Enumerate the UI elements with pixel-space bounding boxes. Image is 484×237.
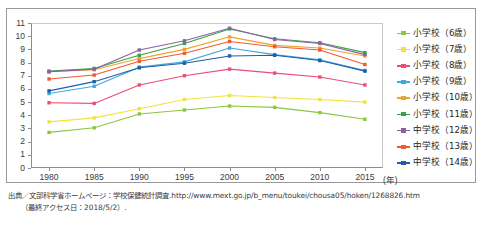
y-axis-tick [28,155,31,156]
data-point-marker [273,96,276,99]
data-point-marker [138,107,141,110]
data-point-marker [318,42,321,45]
data-point-marker [47,120,50,123]
plot-area: 01234567891011 1980198519901995200020052… [31,23,383,168]
legend-item-label: 小学校（11歳） [413,110,478,119]
y-axis-tick [28,115,31,116]
data-point-marker [228,104,231,107]
data-point-marker [183,74,186,77]
legend-item: 中学校（14歳） [397,155,483,171]
source-note: 出典／文部科学省ホームページ：学校保健統計調査.http://www.mext.… [8,190,480,213]
data-point-marker [92,67,95,70]
y-axis-tick [28,168,31,169]
y-axis-tick [28,76,31,77]
data-point-marker [138,54,141,57]
y-axis-tick-label: 9 [3,45,25,54]
y-axis-tick-label: 0 [3,164,25,173]
series-小学校（7歳） [47,94,366,124]
data-point-marker [47,89,50,92]
legend-item: 小学校（8歳） [397,57,483,73]
data-point-marker [92,85,95,88]
y-axis-tick [28,49,31,50]
data-point-marker [273,71,276,74]
data-point-marker [92,126,95,129]
data-point-marker [363,69,366,72]
source-line1-prefix: 出典／文部科学省ホームページ：学校保健統計調査. [8,191,171,200]
y-axis-tick [28,89,31,90]
chart-frame: 01234567891011 1980198519901995200020052… [6,8,476,183]
data-point-marker [318,111,321,114]
data-point-marker [318,98,321,101]
line-chart-svg [31,23,383,168]
legend-item-label: 中学校（14歳） [413,158,478,167]
legend-item-label: 小学校（9歳） [413,77,472,86]
x-axis-tick-label: 2015 [345,173,385,182]
data-point-marker [363,100,366,103]
data-point-marker [138,48,141,51]
legend-marker-icon [397,126,410,135]
data-point-marker [183,62,186,65]
x-axis-tick [365,168,366,171]
data-point-marker [228,35,231,38]
y-axis-tick [28,102,31,103]
legend-marker-icon [397,110,410,119]
data-point-marker [47,77,50,80]
y-axis-tick [28,23,31,24]
data-point-marker [183,48,186,51]
source-url: http://www.mext.go.jp/b_menu/toukei/chou… [171,191,420,200]
x-axis-tick-label: 1985 [74,173,114,182]
x-axis-tick-label: 2000 [210,173,250,182]
data-point-marker [228,94,231,97]
data-point-marker [228,27,231,30]
x-axis-tick [139,168,140,171]
data-point-marker [318,48,321,51]
x-axis-tick [275,168,276,171]
legend-marker-icon [397,61,410,70]
data-point-marker [363,63,366,66]
data-point-marker [183,52,186,55]
data-point-marker [363,83,366,86]
legend-marker-icon [397,77,410,86]
data-point-marker [318,59,321,62]
data-point-marker [273,54,276,57]
y-axis-tick-label: 8 [3,58,25,67]
data-point-marker [183,108,186,111]
y-axis-tick-label: 7 [3,71,25,80]
data-point-marker [273,106,276,109]
data-point-marker [273,45,276,48]
data-point-marker [47,101,50,104]
x-axis-tick [184,168,185,171]
y-axis-tick-label: 2 [3,137,25,146]
data-point-marker [228,46,231,49]
data-point-marker [363,53,366,56]
data-point-marker [92,80,95,83]
series-line [49,48,365,93]
data-point-marker [92,116,95,119]
y-axis-tick-label: 6 [3,84,25,93]
data-point-marker [138,112,141,115]
legend-item: 小学校（11歳） [397,106,483,122]
x-axis-tick-label: 2010 [300,173,340,182]
data-point-marker [228,40,231,43]
legend-item-label: 小学校（6歳） [413,29,472,38]
y-axis-tick [28,142,31,143]
legend-item-label: 中学校（12歳） [413,126,478,135]
x-axis-tick [320,168,321,171]
legend-marker-icon [397,142,410,151]
y-axis-tick [28,36,31,37]
x-axis-tick-label: 1995 [164,173,204,182]
legend-item: 中学校（13歳） [397,138,483,154]
y-axis-tick-label: 10 [3,32,25,41]
chart-legend: 小学校（6歳）小学校（7歳）小学校（8歳）小学校（9歳）小学校（10歳）小学校（… [397,25,483,171]
data-point-marker [47,70,50,73]
series-line [49,106,365,132]
data-point-marker [92,102,95,105]
x-axis-tick-label: 1980 [29,173,69,182]
y-axis-tick-label: 1 [3,150,25,159]
legend-marker-icon [397,45,410,54]
series-line [49,96,365,122]
x-axis-tick-label: 2005 [255,173,295,182]
legend-item-label: 小学校（7歳） [413,45,472,54]
y-axis-tick-label: 11 [3,19,25,28]
legend-marker-icon [397,93,410,102]
